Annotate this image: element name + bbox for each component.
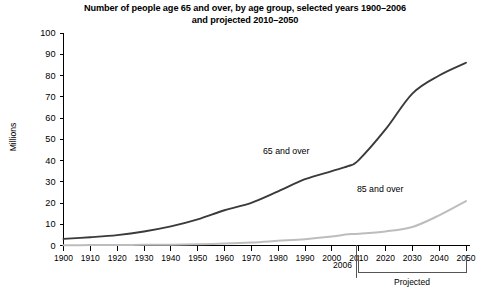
y-tick-label: 90 — [45, 49, 55, 59]
x-tick-label: 1960 — [215, 253, 234, 263]
x-tick-label: 2040 — [430, 253, 449, 263]
x-tick-label: 1980 — [269, 253, 288, 263]
x-tick-label: 1990 — [296, 253, 315, 263]
x-tick-label: 2030 — [403, 253, 422, 263]
y-tick-label: 100 — [40, 28, 55, 38]
y-tick-label: 50 — [45, 134, 55, 144]
y-tick-label: 80 — [45, 71, 55, 81]
x-tick-label: 1900 — [54, 253, 73, 263]
y-tick-label: 30 — [45, 177, 55, 187]
y-axis-ticks: 0102030405060708090100 — [40, 28, 63, 251]
x-tick-label: 1920 — [108, 253, 127, 263]
y-tick-label: 60 — [45, 113, 55, 123]
series-line-85-and-over — [64, 201, 467, 245]
annotation-projected: Projected — [394, 277, 430, 287]
x-tick-label: 1930 — [135, 253, 154, 263]
x-tick-label: 1950 — [188, 253, 207, 263]
x-tick-label: 1940 — [161, 253, 180, 263]
chart-container: Number of people age 65 and over, by age… — [0, 0, 490, 299]
x-tick-label: 2020 — [376, 253, 395, 263]
plot-area: 0102030405060708090100 19001910192019301… — [0, 0, 490, 299]
x-tick-label: 1910 — [81, 253, 100, 263]
x-axis-ticks: 1900191019201930194019501960197019801990… — [54, 246, 476, 263]
series-label-85-and-over: 85 and over — [357, 184, 404, 194]
x-tick-label: 2010 — [349, 253, 368, 263]
y-tick-label: 40 — [45, 156, 55, 166]
x-tick-label: 1970 — [242, 253, 261, 263]
y-tick-label: 20 — [45, 198, 55, 208]
series-label-65-and-over: 65 and over — [263, 146, 310, 156]
y-tick-label: 0 — [50, 241, 55, 251]
y-tick-label: 10 — [45, 219, 55, 229]
y-tick-label: 70 — [45, 92, 55, 102]
annotation-2006: 2006 — [333, 260, 352, 270]
